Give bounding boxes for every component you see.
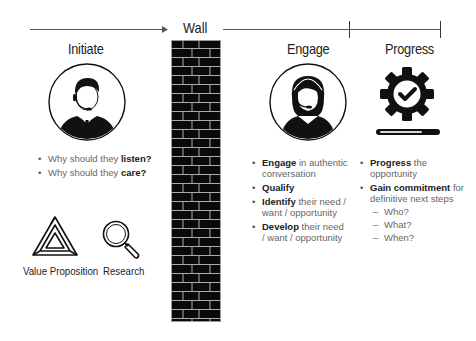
female-headset-agent-icon xyxy=(268,62,348,142)
next-steps-list: Who? What? When? xyxy=(370,206,468,243)
progress-bar-fill xyxy=(380,131,422,133)
engage-bullet-engage: Engage in authentic conversation xyxy=(250,157,348,179)
progress-bar xyxy=(376,129,440,135)
bullet-bold-text: Progress xyxy=(370,157,411,168)
engage-bullet-identify: Identify their need / want / opportunity xyxy=(250,196,348,218)
bullet-text: Why should they xyxy=(48,153,121,164)
initiate-title: Initiate xyxy=(68,40,104,57)
bullet-text: Why should they xyxy=(48,167,121,178)
progress-bullets: Progress the opportunity Gain commitment… xyxy=(358,157,468,246)
engage-title: Engage xyxy=(287,40,329,57)
sub-bullet-what: What? xyxy=(370,219,468,230)
timeline-tick-progress-end xyxy=(440,21,441,38)
bullet-bold-text: Qualify xyxy=(262,182,294,193)
gear-checkmark-icon xyxy=(379,66,435,122)
sub-bullet-when: When? xyxy=(370,232,468,243)
timeline-line-right xyxy=(223,29,441,30)
sub-bullet-who: Who? xyxy=(370,206,468,217)
bullet-bold-text: Develop xyxy=(262,221,299,232)
initiate-bullet-listen: Why should they listen? xyxy=(36,153,166,164)
engage-bullet-qualify: Qualify xyxy=(250,182,348,193)
brick-wall xyxy=(171,40,221,322)
impossible-triangle-icon xyxy=(31,215,79,259)
initiate-bullets: Why should they listen? Why should they … xyxy=(36,153,166,181)
progress-title: Progress xyxy=(385,40,434,57)
research-label: Research xyxy=(103,265,144,277)
timeline-tick-engage-end xyxy=(349,21,350,38)
bullet-bold-text: Gain commitment xyxy=(370,182,450,193)
wall-label: Wall xyxy=(183,19,207,36)
engage-bullets: Engage in authentic conversation Qualify… xyxy=(250,157,348,246)
value-proposition-label: Value Proposition xyxy=(23,265,98,277)
male-headset-agent-icon xyxy=(47,62,127,142)
progress-bullet-progress: Progress the opportunity xyxy=(358,157,468,179)
timeline-arrow-line xyxy=(30,29,164,30)
bullet-bold-text: Identify xyxy=(262,196,296,207)
bullet-bold-text: care? xyxy=(121,167,146,178)
brick-pattern-icon xyxy=(171,40,221,322)
arrow-head-icon xyxy=(162,26,168,33)
bullet-bold-text: listen? xyxy=(121,153,152,164)
bullet-bold-text: Engage xyxy=(262,157,296,168)
magnifier-icon xyxy=(100,218,142,260)
engage-bullet-develop: Develop their need / want / opportunity xyxy=(250,221,348,243)
progress-bullet-commitment: Gain commitment for definitive next step… xyxy=(358,182,468,243)
initiate-bullet-care: Why should they care? xyxy=(36,167,166,178)
